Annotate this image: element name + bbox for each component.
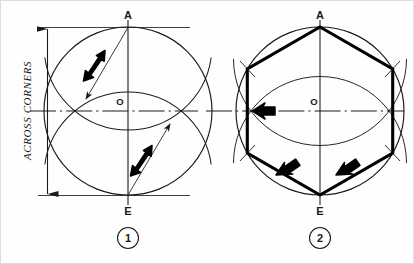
figure-1-label-e: E [124, 205, 131, 217]
figure-1-label-o: O [116, 96, 123, 107]
figure-2-label-o: O [310, 96, 317, 107]
figure-2-label-a: A [316, 9, 324, 21]
figure-1-label-a: A [124, 9, 132, 21]
figure-2-caption-text: 2 [317, 232, 323, 244]
drawing-sheet: ACROSS CORNERS A O [0, 0, 414, 264]
sheet-frame [1, 1, 414, 264]
technical-drawing-canvas: ACROSS CORNERS A O [0, 0, 414, 264]
figure-1-caption-text: 1 [125, 232, 131, 244]
figure-2-label-e: E [316, 205, 323, 217]
